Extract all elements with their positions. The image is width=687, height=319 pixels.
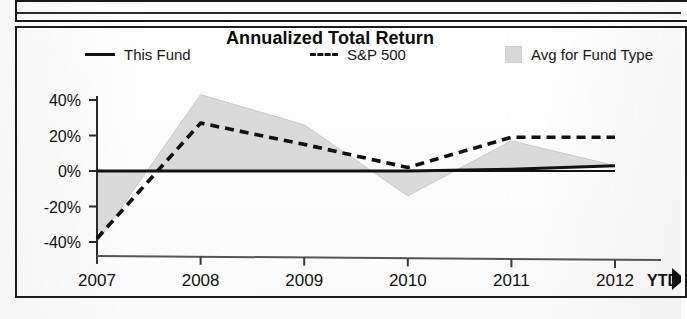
y-axis-tick-label: 0% xyxy=(58,163,81,180)
x-axis-tick-label: 2009 xyxy=(285,271,323,290)
x-axis-tick-label: 2007 xyxy=(78,271,116,290)
y-axis-tick-label: 40% xyxy=(49,92,81,109)
y-axis-tick-label: 20% xyxy=(49,128,81,145)
x-axis-tick-label: 2011 xyxy=(493,271,530,290)
y-axis-tick-label: -20% xyxy=(44,199,81,216)
x-axis-tick-label: 2012 xyxy=(596,271,634,290)
x-axis-line xyxy=(97,256,661,260)
y-axis-tick-label: -40% xyxy=(44,234,81,251)
x-axis-tick-label: 2010 xyxy=(389,271,427,290)
x-axis-tick-label: 2008 xyxy=(182,271,220,290)
